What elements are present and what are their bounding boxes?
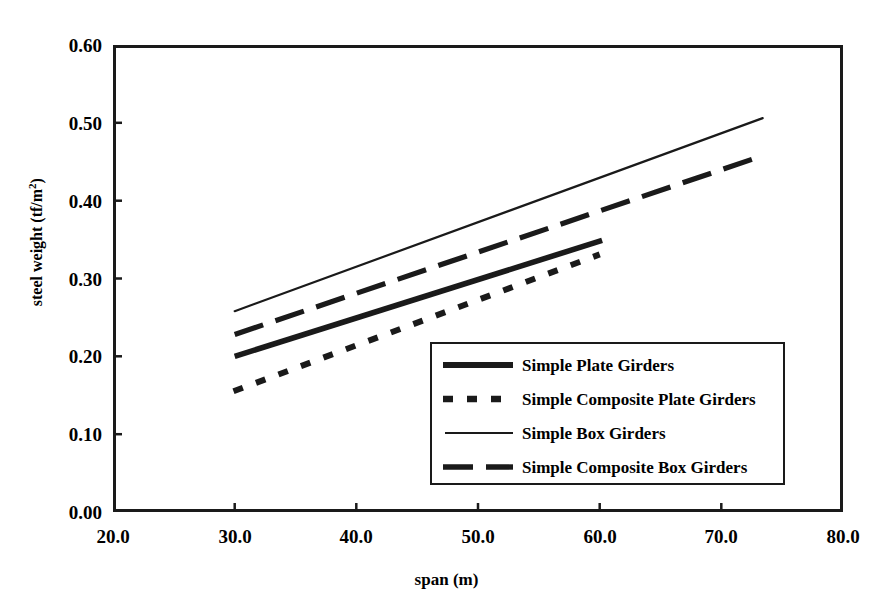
y-tick-label: 0.20: [40, 347, 102, 366]
legend: Simple Plate Girders Simple Composite Pl…: [430, 342, 785, 485]
x-axis-ticks: [235, 503, 722, 512]
legend-label: Simple Composite Box Girders: [522, 459, 747, 476]
x-axis-title: span (m): [0, 570, 893, 590]
y-tick-label: 0.10: [40, 425, 102, 444]
x-tick-label: 50.0: [438, 527, 518, 546]
legend-item-simple-composite-plate-girders: Simple Composite Plate Girders: [432, 382, 783, 416]
x-tick-label: 40.0: [316, 527, 396, 546]
legend-label: Simple Box Girders: [522, 425, 666, 442]
series-line-simple-box-girders: [235, 118, 763, 311]
y-axis-title: steel weight (tf/m2): [26, 142, 46, 342]
y-tick-label: 0.40: [40, 192, 102, 211]
x-tick-label: 60.0: [560, 527, 640, 546]
legend-label: Simple Plate Girders: [522, 357, 674, 374]
legend-item-simple-composite-box-girders: Simple Composite Box Girders: [432, 450, 783, 484]
y-axis-ticks: [113, 123, 122, 434]
chart-figure: 0.60 0.50 0.40 0.30 0.20 0.10 0.00 steel…: [0, 0, 893, 616]
y-tick-label: 0.30: [40, 270, 102, 289]
legend-swatch-thick-solid-icon: [441, 358, 515, 372]
x-tick-label: 30.0: [195, 527, 275, 546]
y-axis-title-text: steel weight (tf/m: [28, 189, 45, 306]
y-axis-title-tail: ): [28, 178, 45, 183]
y-tick-label: 0.50: [40, 114, 102, 133]
y-tick-label: 0.00: [40, 503, 102, 522]
legend-swatch-thin-solid-icon: [441, 426, 515, 440]
legend-swatch-dotted-icon: [441, 392, 515, 406]
y-axis-title-exponent: 2: [26, 183, 38, 189]
legend-label: Simple Composite Plate Girders: [522, 391, 756, 408]
x-tick-label: 70.0: [681, 527, 761, 546]
legend-swatch-long-dash-icon: [441, 460, 515, 474]
series-line-simple-composite-box-girders: [235, 158, 757, 335]
legend-item-simple-plate-girders: Simple Plate Girders: [432, 348, 783, 382]
series-line-simple-plate-girders: [235, 240, 602, 356]
x-axis-tick-labels: 20.0 30.0 40.0 50.0 60.0 70.0 80.0: [0, 527, 893, 557]
legend-item-simple-box-girders: Simple Box Girders: [432, 416, 783, 450]
x-tick-label: 20.0: [73, 527, 153, 546]
x-tick-label: 80.0: [803, 527, 883, 546]
y-tick-label: 0.60: [40, 36, 102, 55]
